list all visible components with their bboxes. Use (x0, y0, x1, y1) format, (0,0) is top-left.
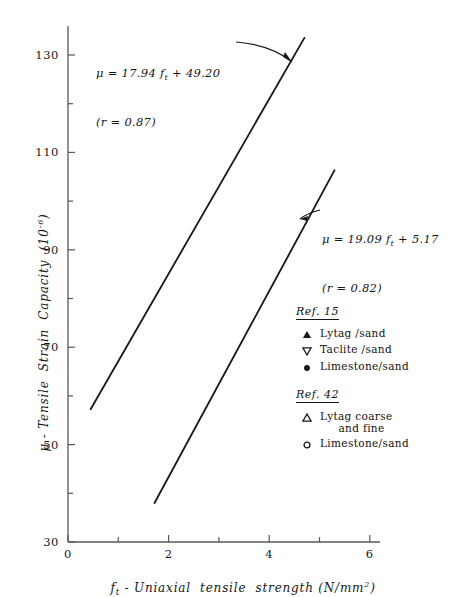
legend-item[interactable]: Taclite /sand (300, 343, 458, 357)
upper-eq-correlation: (r = 0.87) (96, 115, 156, 129)
legend-item[interactable]: Lytag /sand (300, 327, 458, 341)
upper-annotation-arrow-curve (236, 42, 292, 62)
filled-circle-icon (301, 362, 313, 374)
filled-triangle-up-glyph (302, 331, 310, 338)
y-axis-title-exponent: -6 (36, 219, 45, 228)
legend: Ref. 15Lytag /sandTaclite /sandLimestone… (296, 300, 458, 454)
legend-symbol (300, 343, 313, 357)
legend-group-spacer (296, 376, 458, 383)
y-tick-label-30: 30 (43, 535, 59, 549)
y-axis-title-main: - Tensile Strain Capacity (10 (37, 228, 51, 443)
open-triangle-down-icon (301, 345, 313, 357)
legend-symbol (300, 327, 313, 341)
upper-eq-text-rest: + 49.20 (168, 66, 220, 80)
upper-fit-equation-annotation: μ = 17.94 ft + 49.20 (r = 0.87) (96, 36, 220, 160)
legend-label: Taclite /sand (320, 343, 392, 356)
upper-eq-text: μ = 17.94 f (96, 66, 165, 80)
y-axis-title: μ - Tensile Strain Capacity (10-6) (22, 213, 65, 470)
chart-figure: 130110907050300246 μ = 17.94 ft + 49.20 … (0, 0, 461, 597)
annotation-arrows-group (236, 42, 320, 221)
legend-label: Lytag coarse and fine (320, 410, 393, 435)
legend-item[interactable]: Limestone/sand (300, 360, 458, 374)
open-triangle-down-glyph (302, 348, 310, 355)
legend-heading-1: Ref. 15 (296, 305, 339, 320)
open-triangle-up-glyph (302, 414, 310, 421)
x-axis-title: ft - Uniaxial tensile strength (N/mm2) (92, 566, 376, 597)
legend-label: Limestone/sand (320, 360, 409, 373)
x-axis-title-suffix: ) (370, 581, 375, 595)
y-axis-title-prefix: μ (37, 443, 51, 452)
legend-label: Lytag /sand (320, 327, 386, 340)
filled-circle-glyph (304, 365, 310, 371)
lower-eq-text: μ = 19.09 f (322, 232, 391, 246)
legend-symbol (300, 410, 313, 424)
lower-eq-correlation: (r = 0.82) (322, 281, 382, 295)
open-triangle-up-icon (301, 412, 313, 424)
legend-item[interactable]: Lytag coarse and fine (300, 410, 458, 435)
y-axis-title-suffix: ) (37, 213, 51, 218)
filled-triangle-up-icon (301, 329, 313, 341)
legend-heading-2: Ref. 42 (296, 388, 339, 403)
x-tick-label-4: 4 (265, 547, 273, 561)
x-tick-label-6: 6 (366, 547, 374, 561)
y-tick-label-130: 130 (35, 48, 59, 62)
x-tick-label-2: 2 (165, 547, 173, 561)
legend-label: Limestone/sand (320, 437, 409, 450)
x-axis-title-main: - Uniaxial tensile strength (N/mm (125, 581, 365, 595)
open-circle-glyph (304, 442, 310, 448)
x-axis-title-subscript: t (116, 587, 120, 597)
open-circle-icon (301, 439, 313, 451)
x-tick-label-0: 0 (64, 547, 72, 561)
lower-eq-text-rest: + 5.17 (394, 232, 439, 246)
legend-symbol (300, 360, 313, 374)
legend-item[interactable]: Limestone/sand (300, 437, 458, 451)
y-tick-label-110: 110 (35, 145, 59, 159)
upper-annotation-arrowhead (283, 52, 292, 62)
legend-symbol (300, 437, 313, 451)
